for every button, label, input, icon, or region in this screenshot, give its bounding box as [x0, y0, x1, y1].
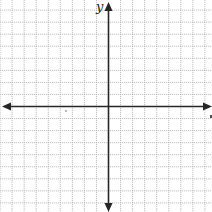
x-axis-left-arrow-icon — [2, 103, 11, 111]
coordinate-plane — [0, 0, 212, 212]
scan-speck — [65, 110, 67, 112]
x-axis — [2, 103, 212, 111]
y-axis-up-arrow-icon — [105, 2, 113, 11]
x-axis-right-arrow-icon — [203, 103, 212, 111]
x-label-fragment — [210, 115, 212, 118]
y-axis-label: y — [96, 0, 103, 13]
y-axis-down-arrow-icon — [105, 203, 113, 212]
